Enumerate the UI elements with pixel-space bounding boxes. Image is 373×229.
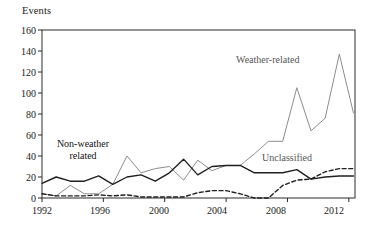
events-line-chart: Events 160 140 120 100 80 60 40 20 0 199… [0, 0, 373, 229]
plot-frame [42, 30, 355, 198]
series-line-non-weather-related [42, 159, 353, 184]
plot-canvas [0, 0, 373, 229]
series-group [42, 54, 353, 198]
